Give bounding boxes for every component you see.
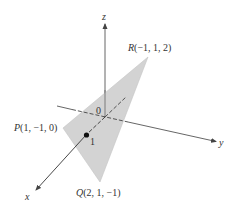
triangle-3d-figure: z y x 0 1 R(−1, 1, 2) P(1, −1, 0) Q(2, 1…: [0, 0, 235, 214]
point-p-letter: P: [13, 122, 20, 133]
triangle-pqr: [63, 57, 148, 182]
diagram-canvas: z y x 0 1 R(−1, 1, 2) P(1, −1, 0) Q(2, 1…: [0, 0, 235, 214]
point-p-coords: (1, −1, 0): [20, 122, 57, 134]
y-axis: [128, 122, 216, 142]
z-axis-label: z: [101, 11, 106, 22]
point-q-coords: (2, 1, −1): [83, 187, 120, 199]
point-r-coords: (−1, 1, 2): [134, 42, 171, 54]
point-r-label: R(−1, 1, 2): [127, 42, 171, 54]
y-axis-label: y: [218, 137, 224, 148]
point-r-letter: R: [127, 42, 134, 53]
x-axis-label: x: [24, 191, 30, 202]
point-q-label: Q(2, 1, −1): [76, 187, 121, 199]
point-p-label: P(1, −1, 0): [13, 122, 57, 134]
origin-label: 0: [96, 105, 101, 116]
y-axis-negative-segment: [57, 106, 72, 110]
unit-point-marker: [84, 132, 89, 137]
unit-tick-label: 1: [90, 136, 95, 147]
x-axis: [36, 135, 86, 190]
